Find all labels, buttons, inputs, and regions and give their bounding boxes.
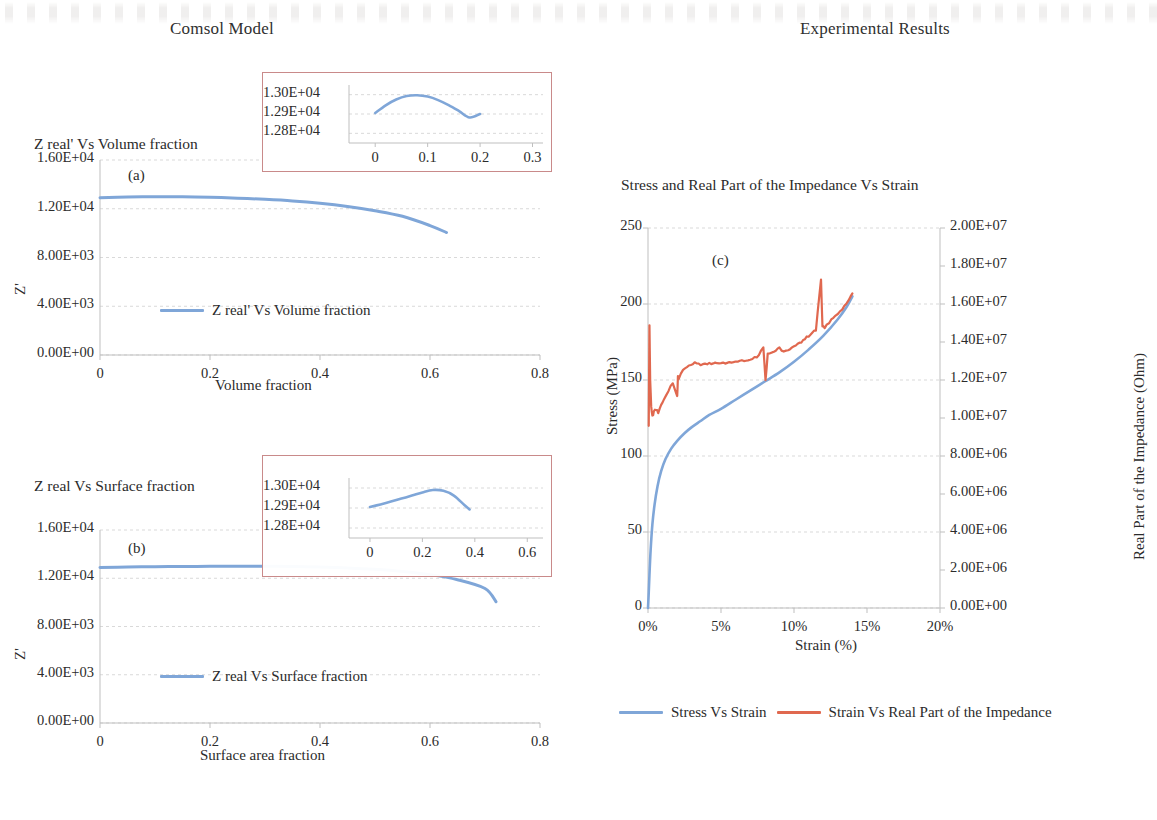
tick-label: 1.30E+04 [263,84,345,101]
comsol-model-title: Comsol Model [170,19,274,39]
tick-label: 0 [65,365,135,382]
chart-a-y-axis-label: Z' [12,283,29,295]
tick-label: 0.8 [505,733,575,750]
tick-label: 0.00E+00 [2,712,94,729]
chart-c-legend-swatch-impedance [777,711,821,714]
tick-label: 250 [580,217,642,234]
chart-c-legend-swatch-stress [619,711,663,714]
tick-label: 50 [580,521,642,538]
chart-a-legend-label: Z real' Vs Volume fraction [212,302,371,319]
tick-label: 0.6 [395,365,465,382]
tick-label: 1.29E+04 [263,103,345,120]
experimental-results-title: Experimental Results [800,19,950,39]
tick-label: 0 [580,597,642,614]
chart-c-left-y-axis-label: Stress (MPa) [604,357,621,435]
tick-label: 1.30E+04 [263,477,345,494]
chart-c-legend-item-impedance: Strain Vs Real Part of the Impedance [777,704,1052,721]
tick-label: 1.40E+07 [950,331,1060,348]
tick-label: 1.00E+07 [950,407,1060,424]
tick-label: 20% [908,618,972,635]
tick-label: 1.80E+07 [950,255,1060,272]
tick-label: 0 [65,733,135,750]
tick-label: 1.60E+04 [2,149,94,166]
tick-label: 8.00E+03 [2,616,94,633]
tick-label: 0.8 [505,365,575,382]
tick-label: 6.00E+06 [950,483,1060,500]
tick-label: 1.20E+04 [2,567,94,584]
chart-b-legend: Z real Vs Surface fraction [160,668,368,685]
tick-label: 0 [350,149,400,166]
tick-label: 200 [580,293,642,310]
tick-label: 1.20E+07 [950,369,1060,386]
chart-c-x-axis-label: Strain (%) [795,637,857,654]
chart-b-legend-label: Z real Vs Surface fraction [212,668,368,685]
tick-label: 0.1 [403,149,453,166]
tick-label: 10% [762,618,826,635]
chart-a-legend: Z real' Vs Volume fraction [160,302,371,319]
chart-c-legend-label-impedance: Strain Vs Real Part of the Impedance [829,704,1052,721]
chart-b-y-axis-label: Z' [12,648,29,660]
tick-label: 1.60E+04 [2,519,94,536]
chart-a-x-axis-label: Volume fraction [215,377,312,394]
tick-label: 5% [689,618,753,635]
chart-b-x-axis-label: Surface area fraction [200,747,325,764]
tick-label: 0% [616,618,680,635]
tick-label: 100 [580,445,642,462]
chart-c-plot [580,160,1157,680]
chart-a-legend-swatch [160,309,204,312]
tick-label: 2.00E+06 [950,559,1060,576]
tick-label: 1.60E+07 [950,293,1060,310]
tick-label: 1.28E+04 [263,122,345,139]
chart-c-legend: Stress Vs Strain Strain Vs Real Part of … [619,704,1052,721]
chart-c-stress-impedance-vs-strain: Stress and Real Part of the Impedance Vs… [580,160,1157,680]
tick-label: 8.00E+03 [2,247,94,264]
tick-label: 4.00E+06 [950,521,1060,538]
tick-label: 0.3 [508,149,558,166]
tick-label: 1.20E+04 [2,198,94,215]
chart-b-inset: 1.28E+041.29E+041.30E+04 00.20.40.6 [262,455,552,577]
chart-b-legend-swatch [160,675,204,678]
chart-c-right-y-axis-label: Real Part of the Impedance (Ohm) [1131,353,1148,560]
tick-label: 0.6 [502,544,552,561]
tick-label: 0.2 [455,149,505,166]
tick-label: 1.28E+04 [263,517,345,534]
tick-label: 2.00E+07 [950,217,1060,234]
chart-c-legend-item-stress: Stress Vs Strain [619,704,767,721]
tick-label: 0 [345,544,395,561]
tick-label: 4.00E+03 [2,664,94,681]
tick-label: 4.00E+03 [2,295,94,312]
tick-label: 0.4 [450,544,500,561]
tick-label: 0.00E+00 [2,344,94,361]
tick-label: 0.00E+00 [950,597,1060,614]
tick-label: 0.2 [397,544,447,561]
chart-a-inset: 1.28E+041.29E+041.30E+04 00.10.20.3 [262,72,552,172]
tick-label: 0.6 [395,733,465,750]
tick-label: 15% [835,618,899,635]
chart-c-legend-label-stress: Stress Vs Strain [671,704,767,721]
tick-label: 1.29E+04 [263,497,345,514]
figure-page: Comsol Model Experimental Results Z real… [0,0,1157,820]
tick-label: 8.00E+06 [950,445,1060,462]
